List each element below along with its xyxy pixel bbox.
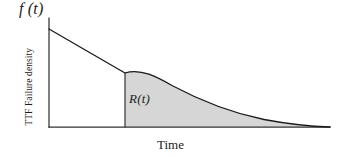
curve-label-ft: f (t) bbox=[19, 1, 44, 17]
reliability-area-fill bbox=[125, 72, 330, 127]
failure-density-reliability-figure: f (t) R(t) Time TTF Failure density bbox=[0, 0, 341, 162]
x-axis-title: Time bbox=[0, 138, 341, 151]
y-axis-title: TTF Failure density bbox=[25, 37, 35, 137]
region-label-rt: R(t) bbox=[129, 92, 150, 105]
